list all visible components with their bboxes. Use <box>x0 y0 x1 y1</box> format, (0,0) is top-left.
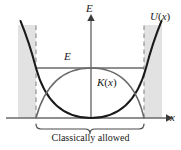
kinetic-curve-label-close: ) <box>113 76 117 88</box>
kinetic-energy-curve <box>36 68 144 118</box>
potential-energy-diagram: E U(x) E K(x) x Classically allowed <box>0 0 181 150</box>
classically-allowed-caption: Classically allowed <box>0 133 181 143</box>
forbidden-region-right-shading <box>144 25 162 118</box>
energy-axis-label: E <box>86 3 93 14</box>
potential-curve-label-base: U <box>150 10 158 22</box>
potential-curve-label: U(x) <box>150 11 170 22</box>
position-axis-label: x <box>170 112 175 123</box>
potential-curve-label-close: ) <box>167 10 171 22</box>
total-energy-line-label: E <box>64 51 71 62</box>
diagram-canvas <box>0 0 181 150</box>
kinetic-curve-label: K(x) <box>97 77 117 88</box>
energy-axis-arrowhead <box>87 14 94 21</box>
